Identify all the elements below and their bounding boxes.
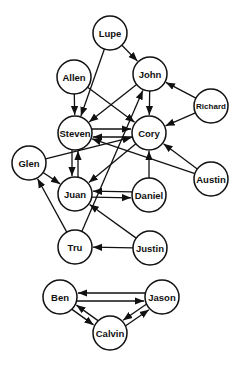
node-ben: Ben [43, 280, 77, 314]
edge-justin-to-tru [93, 247, 133, 248]
node-jason: Jason [145, 280, 179, 314]
node-label: Glen [18, 158, 39, 169]
edge-calvin-to-jason [126, 310, 149, 326]
node-calvin: Calvin [93, 316, 127, 350]
edge-lupe-to-john [122, 45, 137, 61]
edge-glen-to-juan [43, 173, 60, 184]
node-label: Steven [59, 128, 90, 139]
node-cory: Cory [132, 116, 166, 150]
node-richard: Richard [194, 89, 228, 123]
edge-jason-to-calvin [123, 304, 146, 320]
node-austin: Austin [194, 162, 228, 196]
edge-cory-to-juan [89, 144, 136, 183]
node-justin: Justin [133, 231, 167, 265]
node-glen: Glen [12, 146, 46, 180]
edge-john-to-steven [89, 85, 137, 122]
node-label: John [139, 69, 162, 80]
edge-calvin-to-ben [76, 305, 98, 321]
node-label: Daniel [135, 190, 164, 201]
edge-tru-to-john [82, 91, 143, 232]
edge-richard-to-john [166, 82, 196, 98]
node-label: Austin [196, 174, 226, 185]
edge-ben-to-calvin [72, 309, 94, 325]
node-label: Jason [148, 292, 176, 303]
social-network-diagram: LupeAllenJohnRichardStevenCoryGlenAustin… [0, 0, 241, 367]
node-label: Lupe [99, 28, 122, 39]
nodes-layer: LupeAllenJohnRichardStevenCoryGlenAustin… [12, 16, 228, 350]
node-label: Justin [136, 243, 164, 254]
node-john: John [133, 57, 167, 91]
node-label: Calvin [96, 328, 125, 339]
edge-richard-to-cory [166, 113, 196, 126]
node-allen: Allen [57, 60, 91, 94]
node-label: Tru [68, 242, 83, 253]
node-label: Juan [64, 189, 86, 200]
node-label: Cory [138, 128, 160, 139]
edge-justin-to-juan [90, 205, 137, 239]
node-daniel: Daniel [132, 178, 166, 212]
node-steven: Steven [58, 116, 92, 150]
node-label: Richard [196, 102, 226, 111]
node-label: Allen [62, 72, 85, 83]
node-tru: Tru [58, 230, 92, 264]
node-lupe: Lupe [93, 16, 127, 50]
node-juan: Juan [58, 177, 92, 211]
node-label: Ben [51, 292, 69, 303]
edge-juan-to-daniel [92, 197, 131, 198]
